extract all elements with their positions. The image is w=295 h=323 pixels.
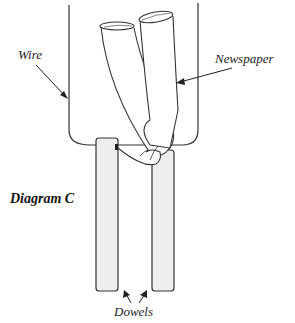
newspaper-tube-right bbox=[140, 16, 178, 148]
dowel-right bbox=[152, 150, 174, 291]
dowel-left bbox=[96, 138, 118, 291]
dowels-label: Dowels bbox=[114, 304, 153, 320]
diagram-drawing bbox=[0, 0, 295, 323]
dowels-arrowhead-left-icon bbox=[123, 290, 130, 298]
diagram-title: Diagram C bbox=[10, 191, 74, 207]
newspaper-label: Newspaper bbox=[215, 51, 274, 67]
wire-label: Wire bbox=[18, 47, 42, 63]
wire-fastener bbox=[115, 144, 118, 150]
newspaper-arrowhead-icon bbox=[176, 78, 185, 85]
